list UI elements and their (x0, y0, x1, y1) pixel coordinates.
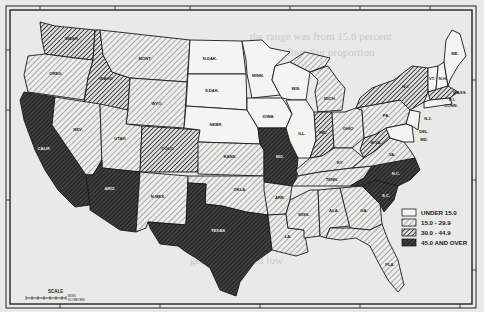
label-fla: FLA. (385, 262, 394, 267)
scale-units-bottom: KILOMETERS (68, 298, 85, 302)
label-wash: WASH. (65, 36, 79, 41)
us-choropleth-map: the range was from 15.6 percent in Wyomi… (0, 0, 484, 312)
label-ariz: ARIZ. (105, 186, 116, 191)
label-sc: S.C. (382, 193, 390, 198)
label-kans: KANS. (223, 154, 236, 159)
label-ill: ILL. (298, 131, 305, 136)
scale-bar: SCALE MILES KILOMETERS (26, 289, 85, 302)
legend-label-3: 45.0 AND OVER (421, 239, 468, 246)
label-ala: ALA. (329, 208, 339, 213)
label-calif: CALIF. (37, 146, 50, 151)
label-tenn: TENN. (326, 177, 339, 182)
label-ga: GA. (360, 208, 367, 213)
state-fla (326, 224, 404, 292)
label-nmex: N.MEX. (151, 194, 165, 199)
state-kans (198, 142, 264, 176)
state-me (444, 30, 466, 86)
legend-label-2: 30.0 - 44.9 (421, 229, 451, 236)
label-utah: UTAH (114, 136, 125, 141)
svg-text:the range was from 15.6 percen: the range was from 15.6 percent (250, 30, 392, 42)
label-wis: WIS. (291, 86, 300, 91)
label-conn: CONN. (444, 103, 458, 108)
label-sdak: S.DAK. (205, 88, 219, 93)
label-iowa: IOWA (262, 114, 273, 119)
label-pa: PA. (383, 113, 390, 118)
legend-label-0: UNDER 15.0 (421, 209, 457, 216)
label-ohio: OHIO (343, 126, 354, 131)
legend-swatch-15-29 (402, 219, 416, 226)
label-oreg: OREG. (49, 71, 63, 76)
label-nev: NEV. (73, 127, 82, 132)
label-mass: MASS. (453, 90, 466, 95)
label-wva: W.VA. (370, 140, 382, 145)
label-idaho: IDAHO (99, 76, 113, 81)
label-ri: R.I. (449, 97, 456, 102)
label-md: MD. (420, 137, 428, 142)
label-nc: N.C. (392, 171, 400, 176)
state-oreg (24, 54, 93, 100)
label-ndak: N.DAK. (203, 56, 217, 61)
states (20, 22, 466, 296)
label-minn: MINN. (252, 73, 264, 78)
legend-swatch-30-44 (402, 229, 416, 236)
label-mont: MONT. (138, 56, 151, 61)
label-mich: MICH. (324, 96, 336, 101)
legend-swatch-45-over (402, 239, 416, 246)
label-ark: ARK. (275, 195, 285, 200)
label-vt: VT. (429, 76, 435, 81)
label-okla: OKLA. (233, 187, 246, 192)
label-ky: KY. (337, 160, 344, 165)
label-nh: N.H. (439, 76, 447, 81)
label-nebr: NEBR. (209, 122, 222, 127)
label-del: DEL. (419, 129, 429, 134)
scale-units-top: MILES (68, 294, 76, 298)
state-mich (310, 66, 345, 112)
label-me: ME. (451, 51, 458, 56)
label-nj: N.J. (424, 116, 432, 121)
legend-swatch-under-15 (402, 209, 416, 216)
label-ind: IND. (319, 130, 327, 135)
label-ny: N.Y. (402, 84, 410, 89)
label-wyo: WYO. (151, 101, 162, 106)
legend: UNDER 15.0 15.0 - 29.9 30.0 - 44.9 45.0 … (402, 209, 468, 246)
label-miss: MISS. (298, 212, 309, 217)
label-texas: TEXAS (211, 228, 225, 233)
label-colo: COLO. (161, 146, 174, 151)
label-va: VA. (389, 152, 396, 157)
label-mo: MO. (276, 154, 284, 159)
scale-title: SCALE (48, 289, 63, 294)
legend-label-1: 15.0 - 29.9 (421, 219, 451, 226)
label-la: LA. (285, 234, 292, 239)
